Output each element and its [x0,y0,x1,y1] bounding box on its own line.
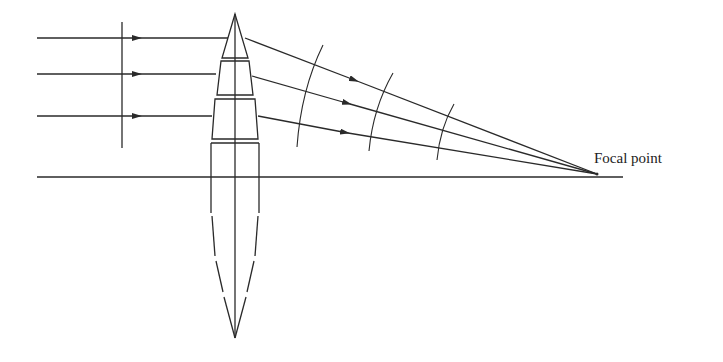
refracted-ray-2 [252,76,350,104]
incoming-rays [37,38,228,116]
refracted-ray-3 [258,116,348,133]
focal-point-marker [596,173,599,176]
converging-wavefront-1 [297,45,323,147]
lens-diagram [0,0,723,362]
converging-wavefronts [297,45,454,160]
refracted-rays [245,38,597,174]
focal-point-label: Focal point [594,150,662,167]
refracted-ray-1 [245,38,357,81]
